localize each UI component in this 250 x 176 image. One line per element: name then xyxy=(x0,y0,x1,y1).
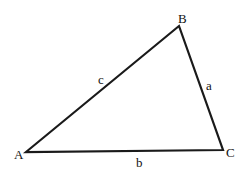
vertex-label-c: C xyxy=(226,145,235,160)
side-label-b: b xyxy=(136,155,143,170)
triangle-abc xyxy=(26,26,223,152)
triangle-diagram: A B C c a b xyxy=(0,0,250,176)
side-label-a: a xyxy=(206,78,212,93)
side-label-c: c xyxy=(98,72,104,87)
vertex-label-b: B xyxy=(178,11,187,26)
vertex-label-a: A xyxy=(14,147,24,162)
